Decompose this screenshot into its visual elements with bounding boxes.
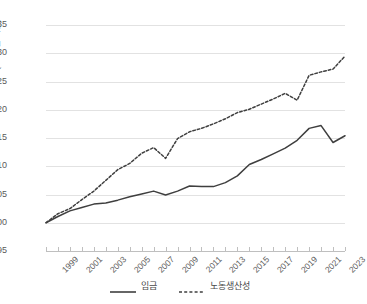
legend-item-wages[interactable]: 임금	[110, 281, 157, 291]
y-axis-tick-label: 105	[0, 190, 7, 199]
plot-area	[46, 25, 345, 251]
y-axis-tick-label: 125	[0, 77, 7, 86]
legend-item-labor-productivity[interactable]: 노동생산성	[179, 281, 250, 291]
series-layer	[46, 25, 345, 251]
x-axis-line	[46, 251, 345, 252]
y-axis-tick-label: 135	[0, 20, 7, 29]
series-line-labor-productivity	[46, 56, 345, 223]
y-axis-tick-label: 95	[0, 246, 7, 255]
x-axis-tick	[345, 247, 346, 251]
legend-label-labor-productivity: 노동생산성	[210, 281, 250, 291]
legend-swatch-dashed-icon	[179, 282, 205, 290]
legend-label-wages: 임금	[141, 281, 157, 291]
y-axis-tick-label: 110	[0, 161, 7, 170]
series-line-wages	[46, 126, 345, 223]
y-axis-tick-label: 130	[0, 48, 7, 57]
legend-swatch-solid-icon	[110, 282, 136, 290]
chart-legend: 임금 노동생산성	[0, 281, 359, 291]
y-axis-tick-label: 120	[0, 105, 7, 114]
y-axis-tick-label: 100	[0, 218, 7, 227]
y-axis-tick-label: 115	[0, 133, 7, 142]
